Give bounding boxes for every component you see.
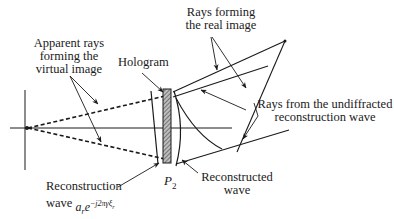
undiffracted-ray — [176, 130, 289, 164]
reconstruction-wave-label: Reconstruction wave are−j2πγξr — [46, 180, 122, 214]
apparent-rays-label: Apparent rays forming the virtual image — [30, 37, 108, 76]
hologram-label: Hologram — [118, 56, 169, 69]
hologram-text: Hologram — [118, 55, 169, 69]
real-ray-upper — [173, 41, 285, 92]
reconstruction-wave-word: wave — [46, 196, 72, 210]
reconstruction-wave-arrow — [118, 163, 159, 187]
real-image-arrow-1 — [211, 37, 217, 70]
diffracted-curve — [176, 98, 222, 149]
hologram-plate — [163, 89, 171, 163]
real-image-rays-line-2: the real image — [176, 19, 266, 32]
reconstruction-wave-line-1: Reconstruction — [46, 180, 122, 193]
hologram-arrow — [142, 73, 163, 92]
undiffracted-rays-line-2: reconstruction wave — [256, 111, 394, 124]
plane-subscript: 2 — [172, 181, 177, 191]
formula-exponent: −j2πγ — [90, 199, 109, 208]
reconstruction-wave-line-2: wave are−j2πγξr — [46, 193, 122, 214]
plane-p2-label: P2 — [164, 174, 176, 193]
reconstructed-wave-line-2: wave — [196, 184, 278, 197]
plane-symbol: P — [164, 173, 172, 188]
reconstruction-formula: are−j2πγξr — [76, 200, 115, 214]
apparent-rays-line-3: virtual image — [30, 63, 108, 76]
apparent-ray-upper — [28, 96, 165, 128]
apparent-rays-arrow-1 — [70, 76, 98, 104]
apparent-rays-arrow-2 — [70, 76, 101, 142]
undiffracted-rays-label: Rays from the undiffracted reconstructio… — [256, 98, 394, 124]
undiffracted-arrow-1 — [201, 90, 246, 110]
real-image-point — [284, 40, 287, 43]
reconstructed-wave-label: Reconstructed wave — [196, 171, 278, 197]
formula-exponent-sub: r — [112, 204, 114, 210]
real-image-rays-label: Rays forming the real image — [176, 6, 266, 32]
real-image-arrow-2 — [212, 37, 246, 88]
